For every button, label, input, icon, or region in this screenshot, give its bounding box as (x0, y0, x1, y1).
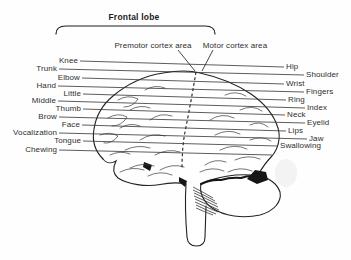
right-label-wrist: Wrist (286, 79, 305, 89)
right-label-hip: Hip (286, 62, 298, 72)
left-label-knee: Knee (59, 56, 78, 66)
left-label-chewing: Chewing (25, 145, 57, 155)
motor-pointer-line (202, 50, 213, 71)
right-label-index: Index (307, 103, 327, 113)
motor-cortex-label: Motor cortex area (203, 41, 267, 51)
right-label-ring: Ring (288, 95, 305, 105)
right-label-fingers: Fingers (306, 87, 333, 97)
scan-shadow (275, 159, 297, 187)
frontal-lobe-bracket (56, 26, 215, 34)
premotor-cortex-label: Premotor cortex area (114, 41, 191, 51)
left-label-tongue: Tongue (54, 136, 81, 146)
right-label-shoulder: Shoulder (306, 70, 339, 80)
right-label-swallowing: Swallowing (280, 141, 321, 151)
right-label-lips: Lips (288, 126, 303, 136)
left-label-middle: Middle (32, 96, 56, 106)
leader-knee-hip (80, 61, 284, 67)
brain-motor-cortex-diagram: Frontal lobe Premotor cortex area Motor … (0, 0, 351, 260)
left-label-thumb: Thumb (56, 104, 81, 114)
left-label-vocalization: Vocalization (13, 128, 57, 138)
premotor-pointer-line (178, 50, 195, 71)
left-label-brow: Brow (38, 112, 57, 122)
left-label-little: Little (64, 89, 82, 99)
left-label-face: Face (62, 120, 80, 130)
right-label-eyelid: Eyelid (307, 118, 329, 128)
left-label-hand: Hand (36, 81, 56, 91)
frontal-lobe-title: Frontal lobe (108, 12, 159, 22)
left-label-elbow: Elbow (58, 73, 80, 83)
left-label-trunk: Trunk (36, 64, 57, 74)
right-label-neck: Neck (287, 110, 306, 120)
